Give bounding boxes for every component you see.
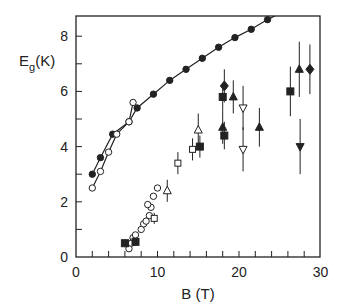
open-circle-marker (145, 201, 151, 207)
open-circle-marker (97, 168, 103, 174)
filled-circle-marker (89, 171, 95, 177)
open-circle-marker (126, 119, 132, 125)
y-axis-label-unit: (K) (35, 52, 55, 69)
filled-triangle-up-marker (229, 92, 237, 100)
filled-circle-marker (215, 44, 221, 50)
chart: 010203002468 B (T) Eg(K) (0, 0, 343, 308)
open-square-marker (151, 215, 157, 221)
filled-circle-marker (183, 66, 189, 72)
filled-circle-marker (264, 16, 270, 22)
filled-circle-marker (167, 77, 173, 83)
filled-triangle-up-marker (219, 123, 227, 131)
x-tick-label: 0 (72, 264, 80, 280)
open-square-marker (190, 146, 196, 152)
x-tick-label: 30 (313, 264, 329, 280)
open-circle-marker (130, 99, 136, 105)
open-square-marker (175, 160, 181, 166)
open-circle-marker (89, 185, 95, 191)
open-triangle-up-marker (163, 186, 171, 194)
filled-circle-marker (248, 26, 254, 32)
open-circle-marker (154, 185, 160, 191)
open-circle-marker (105, 149, 111, 155)
x-tick-label: 20 (231, 264, 247, 280)
data-series (92, 11, 283, 188)
y-axis-label-main: E (19, 52, 29, 69)
open-triangle-up-marker (194, 126, 202, 133)
filled-square-marker (196, 143, 203, 150)
filled-circle-marker (199, 55, 205, 61)
filled-circles-curve-line (92, 11, 283, 174)
y-tick-label: 6 (60, 83, 68, 99)
open-circle-marker (150, 193, 156, 199)
x-tick-label: 10 (150, 264, 166, 280)
filled-circle-marker (232, 34, 238, 40)
open-circle-marker (132, 232, 138, 238)
filled-square-marker (121, 240, 128, 247)
open-triangle-down-marker (239, 105, 247, 113)
open-circle-marker (114, 131, 120, 137)
open-triangle-down-marker (239, 146, 247, 154)
filled-square-marker (221, 132, 228, 139)
filled-triangle-up-marker (255, 123, 263, 131)
data-markers (89, 16, 314, 251)
filled-triangle-up-marker (295, 65, 303, 73)
y-tick-label: 2 (60, 194, 68, 210)
y-tick-label: 4 (60, 139, 68, 155)
filled-diamond-marker (306, 64, 314, 74)
filled-diamond-marker (220, 81, 228, 91)
filled-square-marker (132, 238, 139, 245)
open-circles-curve-line (92, 102, 133, 188)
filled-square-marker (287, 88, 294, 95)
filled-square-marker (219, 93, 226, 100)
filled-triangle-down-marker (296, 144, 304, 152)
x-axis-label: B (T) (181, 285, 214, 302)
y-tick-label: 0 (60, 249, 68, 265)
y-axis-label: Eg(K) (19, 52, 55, 73)
filled-circle-marker (150, 91, 156, 97)
y-tick-label: 8 (60, 28, 68, 44)
filled-circle-marker (97, 154, 103, 160)
filled-circle-marker (134, 105, 140, 111)
